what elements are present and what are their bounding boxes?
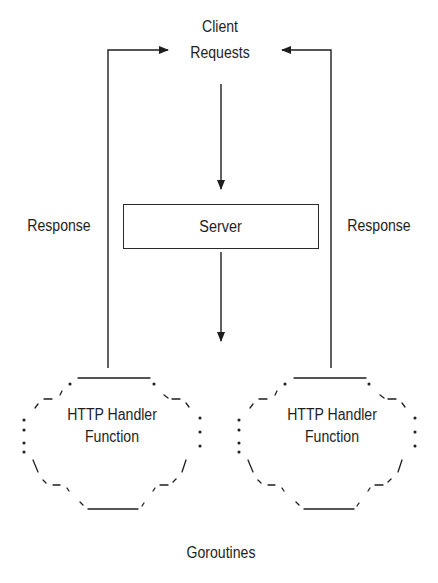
http-handler-right: HTTP Handler Function bbox=[270, 404, 393, 448]
server-node: Server bbox=[123, 204, 319, 249]
http-handler-left: HTTP Handler Function bbox=[50, 404, 173, 448]
response-label-right: Response bbox=[339, 217, 418, 235]
server-label: Server bbox=[200, 218, 242, 236]
client-requests-line2: Requests bbox=[167, 40, 273, 66]
http-handler-left-line2: Function bbox=[50, 426, 173, 448]
http-handler-left-line1: HTTP Handler bbox=[50, 404, 173, 426]
goroutines-label: Goroutines bbox=[167, 544, 274, 562]
client-requests-line1: Client bbox=[167, 14, 273, 40]
response-label-left: Response bbox=[19, 217, 98, 235]
http-handler-right-line1: HTTP Handler bbox=[270, 404, 393, 426]
http-handler-right-line2: Function bbox=[270, 426, 393, 448]
goroutine-server-diagram: Client Requests Server Response Response… bbox=[0, 0, 438, 583]
client-requests-node: Client Requests bbox=[167, 14, 273, 66]
diagram-connectors bbox=[0, 0, 438, 583]
